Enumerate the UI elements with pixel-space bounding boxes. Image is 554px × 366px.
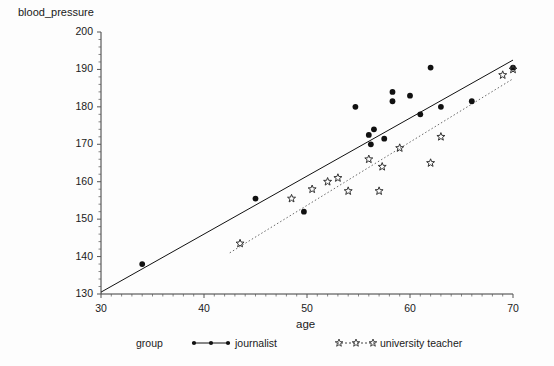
y-tick-label-170: 170 [59, 137, 93, 149]
data-point [288, 194, 296, 202]
x-tick-label-60: 60 [395, 302, 425, 314]
y-tick-label-180: 180 [59, 100, 93, 112]
scatter-chart: blood_pressure age 200190180170160150140… [0, 0, 554, 366]
regression-lines [101, 60, 513, 292]
x-tick-label-40: 40 [189, 302, 219, 314]
data-point [390, 89, 396, 95]
data-point [236, 239, 244, 247]
x-tick-label-30: 30 [86, 302, 116, 314]
data-point [427, 159, 435, 167]
data-point [469, 98, 475, 104]
data-point [437, 133, 445, 141]
data-point [390, 98, 396, 104]
data-point [407, 93, 413, 99]
data-point [301, 209, 307, 215]
data-point [499, 71, 507, 79]
x-tick-label-50: 50 [292, 302, 322, 314]
data-point [353, 104, 359, 110]
y-tick-label-190: 190 [59, 62, 93, 74]
y-axis-ticks [97, 32, 101, 294]
fit-line-journalist [101, 60, 513, 292]
data-point [324, 178, 332, 186]
data-point [375, 187, 383, 195]
data-point [381, 136, 387, 142]
fit-line-university-teacher [230, 79, 513, 253]
x-axis-ticks [101, 294, 513, 298]
x-tick-label-70: 70 [498, 302, 528, 314]
data-point [308, 185, 316, 193]
legend-title: group [136, 337, 163, 349]
y-tick-label-130: 130 [59, 287, 93, 299]
data-point [253, 196, 259, 202]
legend-key-journalist-icon [190, 336, 232, 350]
series-journalist-points [139, 65, 516, 267]
data-point [368, 141, 374, 147]
data-point [417, 111, 423, 117]
data-point [438, 104, 444, 110]
y-tick-label-140: 140 [59, 250, 93, 262]
data-point [428, 65, 434, 71]
legend-label-teacher: university teacher [380, 337, 462, 349]
axis-lines [101, 32, 513, 294]
legend-label-journalist: journalist [235, 337, 277, 349]
data-point [366, 132, 372, 138]
x-axis-title: age [296, 318, 315, 330]
data-point [378, 163, 386, 171]
chart-legend: group journalist university teacher [0, 334, 554, 358]
legend-key-teacher-icon [335, 336, 377, 350]
data-point [334, 174, 342, 182]
y-tick-label-200: 200 [59, 25, 93, 37]
series-teacher-points [236, 65, 517, 247]
y-tick-label-160: 160 [59, 175, 93, 187]
data-point [344, 187, 352, 195]
data-point [139, 261, 145, 267]
y-tick-label-150: 150 [59, 212, 93, 224]
data-point [371, 126, 377, 132]
data-point [365, 155, 373, 163]
